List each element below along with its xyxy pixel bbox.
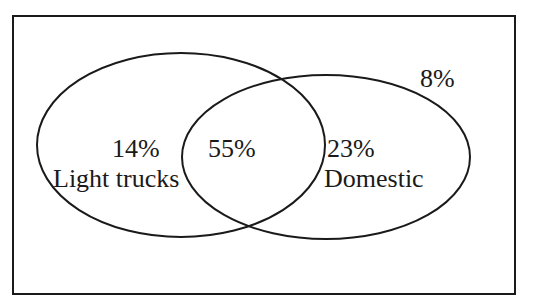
universe-frame xyxy=(13,16,515,294)
light-trucks-label: Light trucks xyxy=(53,164,179,193)
domestic-label: Domestic xyxy=(324,164,424,193)
venn-diagram: 14% Light trucks 55% 23% Domestic 8% xyxy=(0,0,549,307)
outside-percent: 8% xyxy=(420,64,455,93)
light-trucks-ellipse xyxy=(37,53,325,237)
domestic-percent: 23% xyxy=(327,134,375,163)
light-trucks-percent: 14% xyxy=(112,134,160,163)
intersection-percent: 55% xyxy=(208,134,256,163)
